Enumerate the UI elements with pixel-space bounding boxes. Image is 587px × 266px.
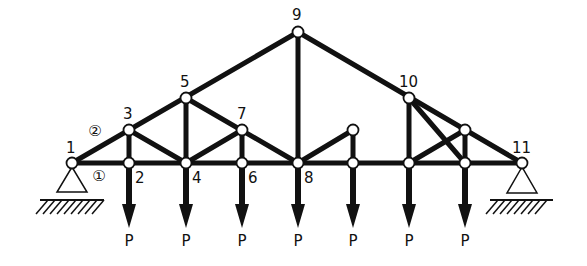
truss-node — [517, 158, 528, 169]
truss-node — [293, 158, 304, 169]
node-label: 11 — [512, 139, 531, 157]
truss-members — [72, 32, 522, 163]
load-label: P — [348, 232, 357, 250]
truss-node — [293, 27, 304, 38]
node-label: 6 — [248, 169, 258, 187]
truss-node — [348, 158, 359, 169]
load-arrow: P — [122, 163, 136, 250]
truss-node — [124, 158, 135, 169]
truss-node — [348, 125, 359, 136]
truss-member — [129, 130, 186, 163]
load-label: P — [404, 232, 413, 250]
truss-member — [409, 130, 465, 163]
load-label: P — [293, 232, 302, 250]
truss-node — [67, 158, 78, 169]
load-arrow: P — [402, 163, 416, 250]
member-label: ② — [88, 122, 101, 140]
node-label: 2 — [135, 169, 145, 187]
node-label: 8 — [304, 169, 314, 187]
load-arrow: P — [235, 163, 249, 250]
truss-node — [237, 125, 248, 136]
load-label: P — [124, 232, 133, 250]
node-label: 7 — [237, 105, 247, 123]
load-arrow: P — [346, 163, 360, 250]
node-label: 5 — [180, 73, 190, 91]
load-label: P — [460, 232, 469, 250]
truss-node — [181, 93, 192, 104]
truss-member — [298, 130, 353, 163]
truss-node — [404, 158, 415, 169]
node-label: 9 — [292, 6, 302, 24]
truss-diagram: PPPPPPP 1234567891011①② — [0, 0, 587, 266]
truss-member — [186, 130, 242, 163]
load-arrow: P — [291, 163, 305, 250]
loads: PPPPPPP — [122, 163, 472, 250]
truss-member — [409, 98, 465, 163]
node-label: 3 — [123, 105, 133, 123]
truss-node — [237, 158, 248, 169]
truss-node — [124, 125, 135, 136]
truss-node — [181, 158, 192, 169]
node-label: 10 — [399, 73, 418, 91]
node-label: 4 — [192, 169, 202, 187]
truss-node — [460, 125, 471, 136]
load-arrow: P — [179, 163, 193, 250]
node-label: 1 — [66, 139, 76, 157]
truss-node — [460, 158, 471, 169]
truss-canvas: PPPPPPP 1234567891011①② — [0, 0, 587, 266]
load-label: P — [237, 232, 246, 250]
load-label: P — [181, 232, 190, 250]
member-label: ① — [92, 167, 105, 185]
load-arrow: P — [458, 163, 472, 250]
truss-node — [404, 93, 415, 104]
pin-support — [486, 167, 553, 214]
